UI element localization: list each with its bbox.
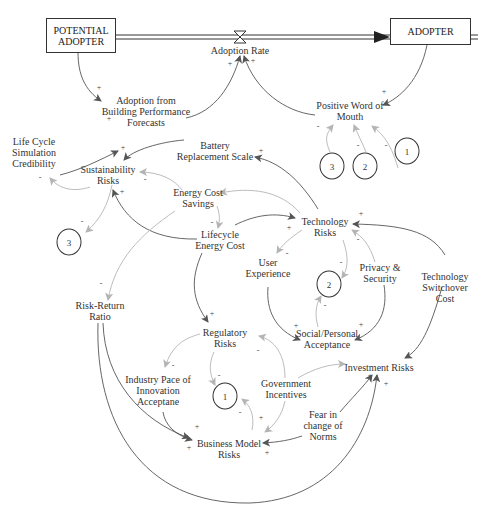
polarity-sign: + bbox=[97, 84, 102, 92]
var-sustainability-risks[interactable]: Sustainability Risks bbox=[81, 164, 136, 186]
polarity-sign: + bbox=[384, 380, 389, 388]
flow-adoption-rate[interactable]: Adoption Rate bbox=[211, 45, 270, 56]
stock-adopter[interactable]: ADOPTER bbox=[390, 18, 471, 45]
var-social-personal-acceptance[interactable]: Social/Personal Acceptance bbox=[296, 328, 358, 350]
var-user-experience[interactable]: User Experience bbox=[246, 257, 291, 279]
var-technology-switchover-cost[interactable]: Technology Switchover Cost bbox=[421, 271, 468, 304]
polarity-sign: + bbox=[294, 322, 299, 330]
var-regulatory-risks[interactable]: Regulatory Risks bbox=[203, 327, 247, 349]
polarity-sign: - bbox=[357, 142, 360, 150]
var-privacy-security[interactable]: Privacy & Security bbox=[360, 262, 401, 284]
polarity-sign: + bbox=[287, 224, 292, 232]
var-business-model-risks[interactable]: Business Model Risks bbox=[197, 438, 261, 460]
polarity-sign: + bbox=[121, 144, 126, 152]
loop-marker-3-top: 3 bbox=[320, 153, 345, 180]
loop-marker-3-left: 3 bbox=[57, 229, 82, 256]
polarity-sign: + bbox=[120, 188, 125, 196]
polarity-sign: - bbox=[286, 250, 289, 258]
polarity-sign: - bbox=[39, 174, 42, 182]
polarity-sign: + bbox=[259, 414, 264, 422]
polarity-sign: + bbox=[210, 310, 215, 318]
polarity-sign: - bbox=[172, 362, 175, 370]
polarity-sign: - bbox=[385, 142, 388, 150]
polarity-sign: + bbox=[228, 60, 233, 68]
loop-marker-1-bottom: 1 bbox=[213, 383, 238, 410]
loop-marker-2-top: 2 bbox=[353, 153, 378, 180]
loop-marker-1-top: 1 bbox=[395, 138, 420, 165]
polarity-sign: + bbox=[359, 321, 364, 329]
var-government-incentives[interactable]: Government Incentives bbox=[261, 378, 311, 400]
polarity-sign: - bbox=[144, 176, 147, 184]
loop-marker-2-middle: 2 bbox=[317, 271, 342, 298]
polarity-sign: + bbox=[107, 115, 112, 123]
polarity-sign: + bbox=[187, 444, 192, 452]
var-technology-risks[interactable]: Technology Risks bbox=[301, 216, 348, 238]
polarity-sign: - bbox=[317, 123, 320, 131]
polarity-sign: - bbox=[257, 347, 260, 355]
polarity-sign: - bbox=[100, 280, 103, 288]
var-industry-pace-innovation[interactable]: Industry Pace of Innovation Acceptane bbox=[125, 374, 191, 407]
polarity-sign: + bbox=[195, 423, 200, 431]
polarity-sign: - bbox=[211, 219, 214, 227]
polarity-sign: + bbox=[265, 449, 270, 457]
polarity-sign: + bbox=[359, 210, 364, 218]
polarity-sign: + bbox=[251, 57, 256, 65]
var-adoption-bpf[interactable]: Adoption from Building Performance Forec… bbox=[102, 95, 191, 128]
polarity-sign: - bbox=[221, 192, 224, 200]
var-positive-word-of-mouth[interactable]: Positive Word of Mouth bbox=[316, 100, 383, 122]
polarity-sign: + bbox=[368, 372, 373, 380]
var-lifecycle-energy-cost[interactable]: Lifecycle Energy Cost bbox=[195, 229, 245, 251]
var-life-cycle-simulation-credibility[interactable]: Life Cycle Simulation Credibility bbox=[12, 136, 56, 169]
polarity-sign: - bbox=[218, 372, 221, 380]
polarity-sign: - bbox=[81, 218, 84, 226]
polarity-sign: + bbox=[259, 147, 264, 155]
polarity-sign: - bbox=[340, 259, 343, 267]
polarity-sign: + bbox=[382, 88, 387, 96]
var-battery-replacement-scale[interactable]: Battery Replacement Scale bbox=[177, 140, 253, 162]
var-risk-return-ratio[interactable]: Risk-Return Ratio bbox=[76, 300, 125, 322]
stock-potential-adopter[interactable]: POTENTIAL ADOPTER bbox=[46, 18, 116, 53]
polarity-sign: - bbox=[324, 302, 327, 310]
var-investment-risks[interactable]: Investment Risks bbox=[344, 362, 413, 373]
polarity-sign: - bbox=[239, 409, 242, 417]
var-fear-change-of-norms[interactable]: Fear in change of Norms bbox=[303, 409, 342, 442]
polarity-sign: - bbox=[357, 236, 360, 244]
var-energy-cost-savings[interactable]: Energy Cost Savings bbox=[173, 187, 223, 209]
